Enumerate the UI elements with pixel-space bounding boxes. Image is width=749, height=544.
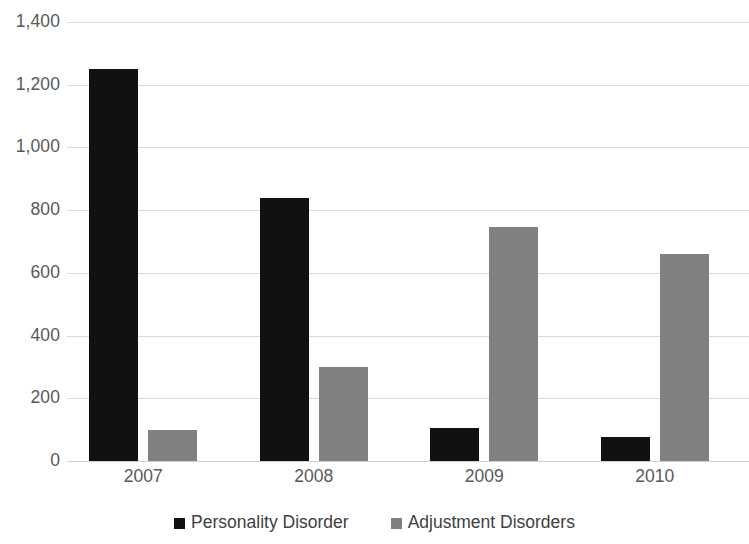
gridline [67, 210, 749, 211]
bar-chart: 1,4001,2001,0008006004002000 20072008200… [0, 0, 749, 544]
y-tick-label: 1,400 [2, 13, 60, 31]
bar [660, 254, 709, 461]
bar [430, 428, 479, 461]
y-tick-label: 400 [2, 327, 60, 345]
gridline [67, 147, 749, 148]
legend-swatch-icon [174, 518, 185, 529]
x-tick-label: 2007 [69, 466, 217, 487]
legend-item[interactable]: Adjustment Disorders [391, 514, 575, 532]
y-tick-label: 800 [2, 201, 60, 219]
y-tick-label: 0 [2, 452, 60, 470]
bar [319, 367, 368, 461]
gridline [67, 22, 749, 23]
bar [260, 198, 309, 461]
y-tick-label: 200 [2, 390, 60, 408]
gridline [67, 398, 749, 399]
plot-area [67, 22, 749, 461]
gridline [67, 273, 749, 274]
gridline [67, 85, 749, 86]
y-tick-label: 600 [2, 264, 60, 282]
gridline [67, 336, 749, 337]
x-tick-label: 2008 [240, 466, 388, 487]
x-tick-label: 2009 [410, 466, 558, 487]
legend-item[interactable]: Personality Disorder [174, 514, 349, 532]
legend-swatch-icon [391, 518, 402, 529]
legend-label: Personality Disorder [191, 514, 349, 532]
y-tick-label: 1,000 [2, 139, 60, 157]
bar [148, 430, 197, 461]
y-tick-label: 1,200 [2, 76, 60, 94]
x-tick-label: 2010 [581, 466, 729, 487]
bar [601, 437, 650, 461]
legend-label: Adjustment Disorders [408, 514, 575, 532]
gridline [67, 461, 749, 462]
chart-legend: Personality DisorderAdjustment Disorders [0, 508, 749, 538]
bar [89, 69, 138, 461]
y-axis: 1,4001,2001,0008006004002000 [0, 22, 60, 461]
bar [489, 227, 538, 461]
x-axis: 2007200820092010 [67, 466, 749, 502]
